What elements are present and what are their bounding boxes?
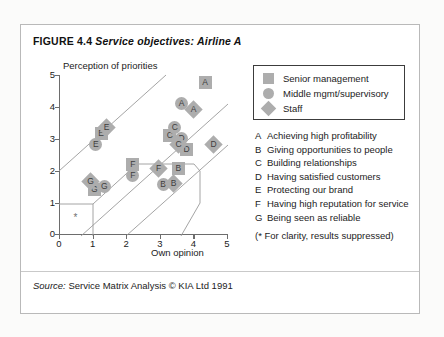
key-text: Building relationships	[267, 156, 357, 170]
key-code: A	[255, 129, 261, 143]
plot-band-lines	[59, 75, 228, 236]
key-item: F Having high reputation for service	[255, 197, 415, 211]
source-divider	[21, 271, 419, 272]
figure-number: FIGURE 4.4	[33, 35, 92, 47]
y-tick-label: 4	[44, 101, 55, 112]
key-code: F	[255, 197, 261, 211]
legend-label: Senior management	[283, 72, 369, 85]
key-code: G	[255, 211, 262, 225]
key-code: C	[255, 156, 262, 170]
key-item: C Building relationships	[255, 156, 415, 170]
x-tick-label: 2	[120, 238, 132, 249]
suppressed-results-note: (* For clarity, results suppressed)	[255, 230, 394, 241]
key-code: E	[255, 183, 261, 197]
legend-label: Middle mgmt/supervisory	[283, 87, 389, 100]
scatter-plot: Perception of priorities Own opinion	[35, 61, 243, 266]
legend-label: Staff	[283, 102, 302, 115]
y-tick-label: 5	[44, 69, 55, 80]
x-tick-label: 1	[87, 238, 99, 249]
data-point-a-square: A	[199, 76, 212, 89]
key-text: Having satisfied customers	[267, 170, 381, 184]
data-point-b-diamond: B	[164, 174, 182, 192]
plot-axes: 5 4 3 2 1 0 0 1 2 3	[59, 75, 227, 235]
key-text: Protecting our brand	[267, 183, 353, 197]
key-code: B	[255, 143, 261, 157]
key-item: G Being seen as reliable	[255, 211, 415, 225]
key-item: B Giving opportunities to people	[255, 143, 415, 157]
data-point-b-square: B	[172, 162, 185, 175]
figure-page: FIGURE 4.4 Service objectives: Airline A…	[0, 0, 444, 337]
figure-container: FIGURE 4.4 Service objectives: Airline A…	[20, 24, 420, 314]
data-point-g-circle: G	[98, 180, 111, 193]
legend: Senior management Middle mgmt/supervisor…	[253, 65, 405, 120]
figure-source: Source: Service Matrix Analysis © KIA Lt…	[33, 280, 233, 291]
figure-title: Service objectives: Airline A	[95, 35, 241, 47]
key-text: Giving opportunities to people	[267, 143, 393, 157]
circle-marker-icon	[263, 88, 274, 99]
source-text: Service Matrix Analysis © KIA Ltd 1991	[68, 280, 232, 291]
x-tick-label: 4	[187, 238, 199, 249]
x-tick-label: 5	[221, 238, 233, 249]
data-point-f-circle: F	[126, 169, 139, 182]
objective-key-list: A Achieving high profitability B Giving …	[255, 129, 415, 224]
key-text: Achieving high profitability	[267, 129, 377, 143]
diamond-marker-icon	[261, 101, 277, 117]
key-code: D	[255, 170, 262, 184]
key-item: D Having satisfied customers	[255, 170, 415, 184]
figure-caption: FIGURE 4.4 Service objectives: Airline A	[33, 35, 242, 47]
key-item: A Achieving high profitability	[255, 129, 415, 143]
y-tick-label: 3	[44, 133, 55, 144]
key-item: E Protecting our brand	[255, 183, 415, 197]
x-tick-label: 3	[154, 238, 166, 249]
source-label: Source:	[33, 280, 66, 291]
data-point-e-diamond: E	[97, 118, 115, 136]
x-tick-label: 0	[53, 238, 65, 249]
y-tick-label: 1	[44, 197, 55, 208]
suppressed-result-asterisk: *	[73, 212, 77, 223]
y-tick-label: 2	[44, 165, 55, 176]
key-text: Having high reputation for service	[267, 197, 409, 211]
square-marker-icon	[263, 73, 274, 84]
key-text: Being seen as reliable	[267, 211, 360, 225]
y-axis-label: Perception of priorities	[63, 60, 158, 71]
